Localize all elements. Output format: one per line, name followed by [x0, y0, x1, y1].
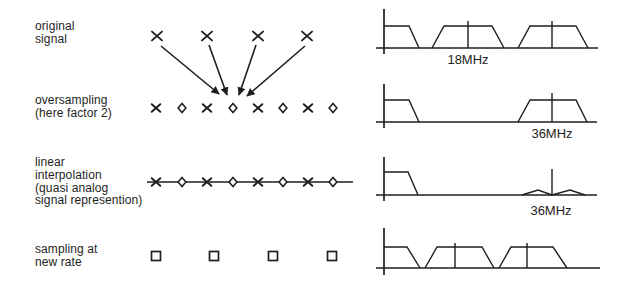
sample-diamond-mark: [229, 177, 237, 186]
sample-cross-mark: [152, 104, 161, 112]
sample-square-mark: [269, 252, 278, 261]
sample-diamond-mark: [229, 103, 237, 112]
sample-cross-mark: [253, 32, 263, 41]
sample-diamond-mark: [329, 103, 337, 112]
sample-diamond-mark: [178, 177, 186, 186]
sample-cross-mark: [203, 104, 212, 112]
spectrum-resampled-envelope: [425, 247, 494, 268]
sample-diamond-mark: [279, 177, 287, 186]
spectrum-original-envelope: [384, 26, 419, 48]
interpolation-arrow: [247, 46, 305, 96]
sample-diamond-mark: [329, 177, 337, 186]
sample-square-mark: [152, 252, 161, 261]
sample-diamond-mark: [279, 103, 287, 112]
sample-square-mark: [328, 252, 337, 261]
spectrum-resampled-envelope: [384, 247, 420, 268]
sample-cross-mark: [302, 32, 312, 41]
sample-cross-mark: [254, 104, 263, 112]
diagram-canvas: [0, 0, 624, 288]
sample-diamond-mark: [178, 103, 186, 112]
spectrum-interpolated-envelope: [384, 172, 418, 195]
spectrum-original-envelope: [518, 26, 588, 48]
sample-cross-mark: [152, 32, 162, 41]
sample-cross-mark: [202, 32, 212, 41]
spectrum-oversampled-envelope: [384, 100, 419, 122]
interpolation-arrow: [161, 46, 219, 94]
sample-square-mark: [210, 252, 219, 261]
spectrum-resampled-envelope: [499, 247, 567, 268]
sample-rate-conversion-figure: original signal oversampling (here facto…: [0, 0, 624, 288]
sample-cross-mark: [304, 104, 313, 112]
interpolation-arrow: [239, 45, 256, 95]
